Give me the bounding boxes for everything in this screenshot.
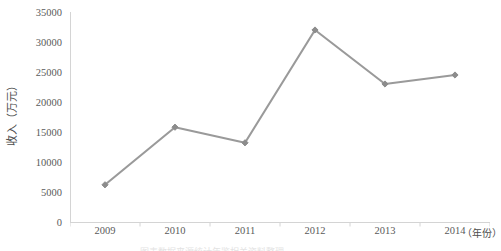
x-axis-tick-label: 2012 bbox=[305, 225, 326, 236]
plot-svg bbox=[70, 12, 490, 227]
x-axis-tick-label: 2009 bbox=[95, 225, 116, 236]
x-axis-tick-label: 2013 bbox=[375, 225, 396, 236]
axis-lines bbox=[70, 12, 490, 223]
y-axis-tick-label: 20000 bbox=[36, 97, 62, 108]
x-axis-tick-labels: 200920102011201220132014 bbox=[0, 225, 501, 245]
plot-area bbox=[70, 12, 490, 222]
y-axis-tick-label: 30000 bbox=[36, 37, 62, 48]
data-point-marker bbox=[452, 72, 458, 78]
y-axis-tick-label: 25000 bbox=[36, 67, 62, 78]
bottom-caption-strip: 图表数据来源统计年鉴相关资料整理 bbox=[140, 245, 390, 251]
series-line bbox=[105, 30, 455, 185]
series-markers bbox=[102, 27, 458, 188]
y-axis-title-text: 收入（万元） bbox=[3, 80, 19, 146]
y-axis-tick-label: 35000 bbox=[36, 7, 62, 18]
y-axis-tick-label: 15000 bbox=[36, 127, 62, 138]
x-axis-tick-label: 2011 bbox=[235, 225, 256, 236]
y-axis-tick-label: 5000 bbox=[41, 187, 62, 198]
y-axis-tick-label: 10000 bbox=[36, 157, 62, 168]
x-axis-title: （年份） bbox=[462, 225, 501, 240]
y-axis-tick-labels: 05000100001500020000250003000035000 bbox=[20, 0, 66, 251]
y-axis-title: 收入（万元） bbox=[0, 0, 22, 225]
x-axis-tick-label: 2010 bbox=[165, 225, 186, 236]
line-chart: 收入（万元） 050001000015000200002500030000350… bbox=[0, 0, 501, 251]
